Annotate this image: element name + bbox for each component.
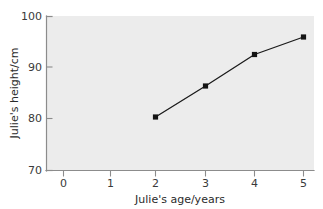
- x-axis-title: Julie's age/years: [134, 193, 225, 206]
- y-tick-label-100: 100: [21, 10, 42, 23]
- plot-area-background: [46, 16, 314, 171]
- x-tick-label-2: 2: [152, 177, 159, 190]
- x-tick-label-1: 1: [107, 177, 114, 190]
- y-tick-label-70: 70: [28, 164, 42, 177]
- y-tick-label-80: 80: [28, 112, 42, 125]
- x-tick-label-3: 3: [202, 177, 209, 190]
- x-tick-label-4: 4: [251, 177, 258, 190]
- data-point-age-3: [203, 83, 208, 88]
- x-tick-label-5: 5: [300, 177, 307, 190]
- data-point-age-5: [301, 34, 306, 39]
- data-point-age-4: [252, 52, 257, 57]
- x-tick-label-0: 0: [60, 177, 67, 190]
- y-tick-label-90: 90: [28, 61, 42, 74]
- data-point-age-2: [153, 114, 158, 119]
- y-axis-title: Julie's height/cm: [8, 48, 21, 140]
- line-chart-figure: 100 90 80 70 0 1 2 3 4 5: [0, 0, 323, 209]
